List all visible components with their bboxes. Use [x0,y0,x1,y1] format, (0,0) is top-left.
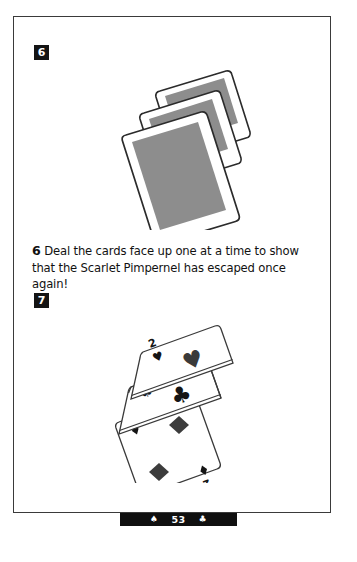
face-down-card-stack-svg [74,65,274,230]
step-6-caption: 6 Deal the cards face up one at a time t… [32,243,324,293]
caption-text: Deal the cards face up one at a time to … [32,244,299,291]
page-frame: 6 6 Deal [13,16,331,513]
face-down-card-stack-illustration [74,65,274,230]
dealt-twos-spread-svg: 2 2 [74,303,284,483]
club-icon: ♣ [199,515,208,524]
svg-text:2: 2 [147,336,159,351]
step-badge-6: 6 [34,45,49,60]
spade-icon: ♠ [150,515,159,524]
page-number: 53 [171,515,185,525]
page-root: 6 6 Deal [0,0,357,562]
caption-lead-number: 6 [32,243,41,258]
step-badge-7: 7 [34,293,49,308]
footer-page-plate: ♠ 53 ♣ [120,513,237,526]
dealt-twos-spread-illustration: 2 2 [74,303,284,483]
svg-text:2: 2 [201,476,213,483]
